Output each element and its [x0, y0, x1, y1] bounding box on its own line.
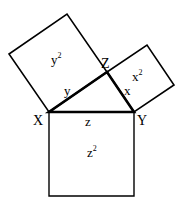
vertex-label-y: Y [137, 113, 147, 128]
side-label-x: x [124, 83, 131, 98]
pythagorean-diagram: X Y Z z y x y2 x2 z2 [0, 0, 182, 204]
vertex-label-x: X [33, 113, 43, 128]
square-y2 [9, 14, 107, 112]
area-label-y2: y2 [51, 51, 62, 67]
area-exp-z: 2 [93, 144, 97, 153]
area-label-x2: x2 [132, 68, 143, 84]
side-label-z: z [85, 114, 91, 129]
area-exp-y: 2 [58, 51, 62, 60]
vertex-label-z: Z [101, 56, 110, 71]
right-triangle-xyz [49, 72, 134, 112]
side-label-y: y [64, 83, 71, 98]
square-x2 [107, 45, 174, 112]
area-label-z2: z2 [87, 144, 97, 160]
area-exp-x: 2 [139, 68, 143, 77]
